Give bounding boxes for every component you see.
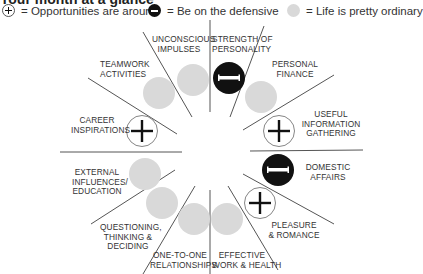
label-line: PERSONALITY [212,45,268,55]
sector-label-teamwork-activities: TEAMWORK ACTIVITIES [100,60,146,79]
sector-label-one-to-one-relationships: ONE-TO-ONE RELATIONSHIPS [150,251,210,270]
minus-circle-icon [262,154,294,186]
divider-line [250,150,363,151]
label-line: DECIDING [100,242,156,252]
label-line: WORK & HEALTH [212,261,272,271]
gray-circle-icon [178,203,210,235]
label-line: IMPULSES [152,45,206,55]
label-line: RELATIONSHIPS [150,261,210,271]
sector-label-questioning-thinking-deciding: QUESTIONING, THINKING & DECIDING [100,223,156,252]
sector-label-unconscious-impulses: UNCONSCIOUS IMPULSES [152,35,206,54]
gray-circle-icon [143,77,175,109]
gray-circle-icon [129,158,161,190]
plus-circle-icon [127,116,158,147]
sector-label-strength-of-personality: STRENGTH OF PERSONALITY [212,35,268,54]
sector-label-career-inspirations: CAREER INSPIRATIONS [71,116,123,135]
sector-label-pleasure-romance: PLEASURE & ROMANCE [268,221,320,240]
sector-label-personal-finance: PERSONAL FINANCE [271,60,319,79]
label-line: ACTIVITIES [100,70,146,80]
sector-label-effective-work-health: EFFECTIVE WORK & HEALTH [212,251,272,270]
label-line: INSPIRATIONS [71,126,123,136]
gray-circle-icon [245,81,277,113]
plus-circle-icon [245,188,276,219]
label-line: AFFAIRS [300,173,356,183]
label-line: & ROMANCE [268,231,320,241]
label-line: GATHERING [300,129,362,139]
label-line: EDUCATION [72,187,122,197]
sector-label-domestic-affairs: DOMESTIC AFFAIRS [300,163,356,182]
gray-circle-icon [177,64,209,96]
gray-circle-icon [211,203,243,235]
plus-circle-icon [264,116,295,147]
sector-label-useful-information-gathering: USEFUL INFORMATION GATHERING [300,110,362,139]
minus-circle-icon [213,62,245,94]
label-line: FINANCE [271,70,319,80]
sector-label-external-influences-education: EXTERNAL INFLUENCES/ EDUCATION [72,168,122,197]
gray-circle-icon [146,187,178,219]
